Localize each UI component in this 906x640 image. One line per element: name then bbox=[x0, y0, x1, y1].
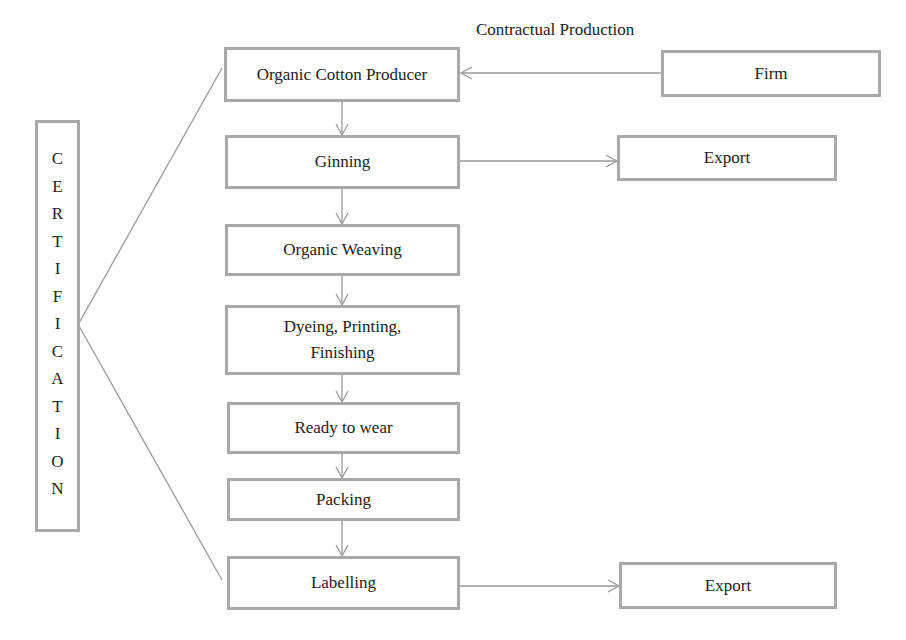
line-cert-to-producer bbox=[79, 68, 222, 323]
node-dyeing-printing-finishing: Dyeing, Printing, Finishing bbox=[225, 305, 460, 375]
cert-letter: N bbox=[51, 475, 63, 503]
node-organic-weaving: Organic Weaving bbox=[225, 224, 460, 276]
cert-letter: A bbox=[51, 365, 63, 393]
node-organic-cotton-producer: Organic Cotton Producer bbox=[224, 47, 460, 102]
cert-letter: I bbox=[55, 255, 61, 283]
node-ginning: Ginning bbox=[225, 135, 460, 189]
node-label: Firm bbox=[754, 63, 787, 85]
node-firm: Firm bbox=[661, 50, 881, 97]
cert-letter: C bbox=[52, 338, 63, 366]
node-labelling: Labelling bbox=[227, 556, 460, 610]
node-label: Export bbox=[705, 575, 751, 597]
cert-letter: I bbox=[55, 420, 61, 448]
line-cert-to-labelling bbox=[79, 326, 222, 580]
node-export-2: Export bbox=[619, 562, 837, 609]
cert-letter: E bbox=[52, 173, 62, 201]
cert-letter: T bbox=[52, 393, 62, 421]
node-packing: Packing bbox=[227, 478, 460, 521]
cert-letter: I bbox=[55, 310, 61, 338]
node-label: Organic Cotton Producer bbox=[257, 64, 428, 86]
cert-letter: T bbox=[52, 228, 62, 256]
node-label: Finishing bbox=[310, 340, 374, 366]
node-label: Ginning bbox=[315, 151, 371, 173]
certification-box: C E R T I F I C A T I O N bbox=[35, 120, 80, 532]
node-label: Export bbox=[704, 147, 750, 169]
contractual-production-label: Contractual Production bbox=[476, 20, 634, 40]
cert-letter: R bbox=[52, 200, 63, 228]
node-label: Dyeing, Printing, bbox=[284, 314, 402, 340]
node-label: Packing bbox=[316, 489, 371, 511]
cert-letter: O bbox=[51, 448, 63, 476]
node-label: Labelling bbox=[311, 572, 376, 594]
node-label: Organic Weaving bbox=[283, 239, 401, 261]
node-export-1: Export bbox=[617, 135, 837, 181]
node-ready-to-wear: Ready to wear bbox=[227, 402, 460, 454]
cert-letter: F bbox=[53, 283, 62, 311]
node-label: Ready to wear bbox=[294, 417, 392, 439]
cert-letter: C bbox=[52, 145, 63, 173]
